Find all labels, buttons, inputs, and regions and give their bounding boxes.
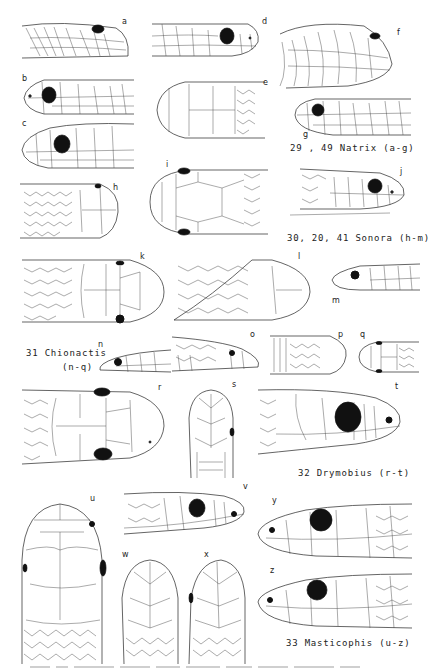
figure-d-lateral-head [152,20,262,60]
figure-label: g [303,130,308,139]
figure-r-dorsal-head [20,388,165,466]
figure-k-dorsal-head [20,258,165,324]
figure-label: m [332,296,340,305]
faded-footer-caption [30,656,410,664]
figure-label: d [262,17,267,26]
caption-natrix: 29 , 49 Natrix (a-g) [290,143,414,153]
caption-masticophis: 33 Masticophis (u-z) [286,638,410,648]
figure-label: p [338,330,343,339]
caption-sonora: 30, 20, 41 Sonora (h-m) [287,233,430,243]
figure-label: f [397,28,400,37]
figure-label: e [263,78,268,87]
figure-label: h [113,183,118,192]
figure-u-dorsal-head [20,500,106,665]
figure-z-lateral-head [256,572,412,632]
figure-label: v [243,482,248,491]
figure-q-dorsal-head [357,340,419,374]
figure-l-dorsal-head [172,256,312,322]
figure-label: l [298,252,300,261]
caption-chionactis: 31 Chionactis [26,348,107,358]
figure-v-lateral-head [124,490,246,538]
figure-g-lateral-head [293,97,411,137]
caption-chionactis-range: (n-q) [62,362,93,372]
figure-n-lateral-head [96,348,171,374]
figure-label: j [400,167,402,176]
figure-c-lateral-head [20,122,134,170]
figure-f-lateral-head [278,20,398,90]
figure-label: k [140,252,145,261]
figure-label: s [232,380,236,389]
figure-label: t [395,382,398,391]
figure-s-ventral-head [187,388,237,480]
figure-label: o [250,330,255,339]
figure-i-dorsal-head [148,168,268,236]
figure-o-lateral-head [172,335,262,375]
figure-t-lateral-head [256,388,402,458]
figure-j-lateral-head [300,167,410,215]
figure-h-dorsal-head [20,182,120,240]
figure-m-lateral-head [330,262,420,292]
figure-label: q [360,330,365,339]
figure-b-lateral-head [22,78,134,116]
figure-y-lateral-head [256,502,412,562]
figure-a-lateral-head [20,18,130,60]
figure-label: a [122,17,127,26]
figure-x-ventral-head [187,558,247,666]
figure-w-ventral-head [120,558,180,666]
caption-drymobius: 32 Drymobius (r-t) [298,468,410,478]
figure-p-ventral-head [270,334,348,376]
figure-e-dorsal-head [155,80,265,140]
figure-label: r [158,383,161,392]
